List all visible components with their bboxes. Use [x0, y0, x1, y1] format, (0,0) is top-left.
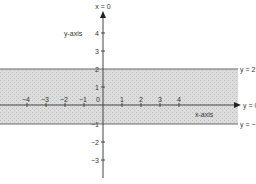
label-y-eq-neg1: y = −1 — [240, 121, 256, 129]
x-tick-label: 2 — [139, 96, 143, 103]
x-tick-label: 1 — [120, 96, 124, 103]
label-x-axis: x-axis — [195, 111, 214, 118]
label-y-axis: y-axis — [64, 30, 83, 38]
label-y-eq-2: y = 2 — [240, 66, 255, 74]
y-axis-arrow-icon — [100, 11, 106, 18]
label-y-eq-0: y = 0 — [243, 102, 256, 110]
y-tick-label: 3 — [95, 48, 99, 55]
y-tick-label: 2 — [95, 66, 99, 73]
y-tick-label: 1 — [95, 84, 99, 91]
x-tick-label: 4 — [177, 96, 181, 103]
x-tick-label: 0 — [96, 96, 100, 103]
y-tick-label: −3 — [91, 157, 99, 164]
x-tick-label: −3 — [41, 96, 49, 103]
x-tick-label: −4 — [22, 96, 30, 103]
y-tick-label: −2 — [91, 139, 99, 146]
label-x-eq-0: x = 0 — [95, 3, 110, 10]
x-tick-label: −2 — [60, 96, 68, 103]
y-tick-label: −1 — [91, 121, 99, 128]
x-tick-label: 3 — [158, 96, 162, 103]
coordinate-plane: −4 −3 −2 −1 0 1 2 3 4 4 3 2 1 −1 −2 −3 x… — [0, 0, 256, 184]
graph-canvas: −4 −3 −2 −1 0 1 2 3 4 4 3 2 1 −1 −2 −3 x… — [0, 0, 256, 184]
x-tick-label: −1 — [79, 96, 87, 103]
y-tick-label: 4 — [95, 30, 99, 37]
